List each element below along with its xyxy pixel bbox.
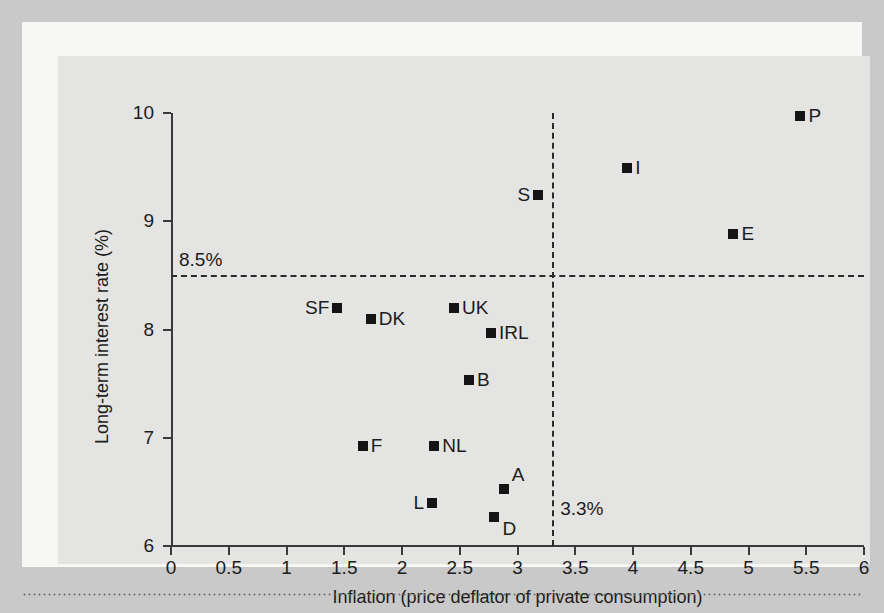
bottom-dotted-rule <box>22 592 862 597</box>
data-point-marker <box>486 328 496 338</box>
x-tick-label: 0 <box>148 557 194 579</box>
y-axis-line <box>171 113 173 547</box>
x-tick-label: 3 <box>495 557 541 579</box>
figure-mat: 678910 00.511.522.533.544.555.56 Long-te… <box>22 22 862 567</box>
data-point-marker <box>366 314 376 324</box>
x-tick-label: 0.5 <box>206 557 252 579</box>
x-tick <box>401 547 403 555</box>
data-point-label: DK <box>379 309 405 328</box>
y-axis-title: Long-term interest rate (%) <box>92 167 113 507</box>
data-point-marker <box>427 498 437 508</box>
y-tick-label: 9 <box>110 210 154 232</box>
x-tick <box>574 547 576 555</box>
x-tick-label: 2 <box>379 557 425 579</box>
data-point-label: B <box>477 370 490 389</box>
x-tick <box>170 547 172 555</box>
x-tick <box>863 547 865 555</box>
x-tick <box>517 547 519 555</box>
x-tick-label: 5 <box>726 557 772 579</box>
x-tick-label: 2.5 <box>437 557 483 579</box>
y-tick <box>163 329 171 331</box>
x-tick-label: 5.5 <box>783 557 829 579</box>
data-point-marker <box>332 303 342 313</box>
x-tick-label: 3.5 <box>552 557 598 579</box>
y-tick-label: 10 <box>110 102 154 124</box>
x-tick-label: 4.5 <box>668 557 714 579</box>
data-point-label: NL <box>442 436 466 455</box>
y-tick-label: 6 <box>110 535 154 557</box>
data-point-marker <box>489 512 499 522</box>
x-tick <box>748 547 750 555</box>
data-point-label: D <box>502 519 516 538</box>
data-point-label: S <box>518 185 531 204</box>
data-point-label: P <box>808 106 821 125</box>
x-tick-label: 6 <box>841 557 884 579</box>
x-tick <box>632 547 634 555</box>
data-point-marker <box>533 190 543 200</box>
x-tick <box>459 547 461 555</box>
x-tick <box>690 547 692 555</box>
data-point-marker <box>795 111 805 121</box>
x-tick <box>228 547 230 555</box>
figure-container: 678910 00.511.522.533.544.555.56 Long-te… <box>0 0 884 613</box>
data-point-label: I <box>635 158 640 177</box>
reference-line-label-inflation-criterion: 3.3% <box>560 498 603 520</box>
plot-area: 678910 00.511.522.533.544.555.56 Long-te… <box>58 56 870 564</box>
reference-line-interest-rate-criterion <box>171 275 864 277</box>
x-axis-title: Inflation (price deflator of private con… <box>171 587 864 608</box>
x-tick <box>805 547 807 555</box>
data-point-label: SF <box>305 298 329 317</box>
y-tick <box>163 437 171 439</box>
x-tick-label: 1.5 <box>321 557 367 579</box>
data-point-marker <box>449 303 459 313</box>
y-tick-label: 8 <box>110 319 154 341</box>
x-tick <box>286 547 288 555</box>
x-tick <box>343 547 345 555</box>
data-point-marker <box>429 441 439 451</box>
data-point-label: UK <box>462 298 488 317</box>
data-point-label: F <box>371 436 383 455</box>
data-point-marker <box>499 484 509 494</box>
reference-line-label-interest-rate-criterion: 8.5% <box>179 249 222 271</box>
data-point-label: E <box>741 224 754 243</box>
x-tick-label: 4 <box>610 557 656 579</box>
data-point-marker <box>728 229 738 239</box>
x-tick-label: 1 <box>264 557 310 579</box>
y-tick <box>163 220 171 222</box>
data-point-label: L <box>413 493 424 512</box>
data-point-marker <box>358 441 368 451</box>
data-point-marker <box>622 163 632 173</box>
data-point-label: IRL <box>499 323 529 342</box>
data-point-label: A <box>512 465 525 484</box>
reference-line-inflation-criterion <box>552 113 554 546</box>
y-tick-label: 7 <box>110 427 154 449</box>
data-point-marker <box>464 375 474 385</box>
y-tick <box>163 112 171 114</box>
